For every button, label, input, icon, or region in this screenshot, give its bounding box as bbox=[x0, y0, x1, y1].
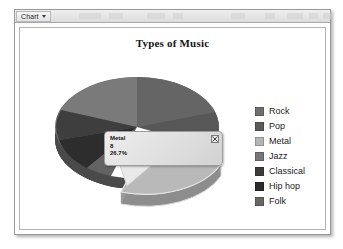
toolbar-disabled-controls bbox=[51, 10, 330, 22]
chart-legend: Rock Pop Metal Jazz Classical bbox=[255, 104, 335, 209]
legend-item-rock[interactable]: Rock bbox=[255, 104, 335, 119]
tooltip-percent: 26.7% bbox=[110, 150, 127, 158]
legend-label: Jazz bbox=[269, 151, 288, 162]
chart-application: Chart Types of Music bbox=[0, 0, 343, 249]
close-box-icon[interactable] bbox=[211, 135, 219, 143]
legend-item-hip-hop[interactable]: Hip hop bbox=[255, 179, 335, 194]
legend-label: Pop bbox=[269, 121, 285, 132]
legend-swatch-icon bbox=[255, 152, 264, 161]
legend-swatch-icon bbox=[255, 182, 264, 191]
legend-item-classical[interactable]: Classical bbox=[255, 164, 335, 179]
legend-label: Classical bbox=[269, 166, 305, 177]
legend-swatch-icon bbox=[255, 107, 264, 116]
chart-menu-label: Chart bbox=[21, 12, 39, 21]
data-tooltip[interactable]: Metal 8 26.7% bbox=[104, 131, 223, 166]
legend-item-jazz[interactable]: Jazz bbox=[255, 149, 335, 164]
tooltip-text: Metal 8 26.7% bbox=[110, 135, 127, 158]
legend-swatch-icon bbox=[255, 137, 264, 146]
legend-label: Metal bbox=[269, 136, 291, 147]
legend-swatch-icon bbox=[255, 122, 264, 131]
toolbar: Chart bbox=[15, 10, 330, 23]
legend-item-folk[interactable]: Folk bbox=[255, 194, 335, 209]
legend-label: Hip hop bbox=[269, 181, 300, 192]
tooltip-label: Metal bbox=[110, 135, 127, 143]
chart-menu-button[interactable]: Chart bbox=[16, 11, 51, 22]
legend-swatch-icon bbox=[255, 167, 264, 176]
legend-label: Folk bbox=[269, 196, 286, 207]
legend-swatch-icon bbox=[255, 197, 264, 206]
chart-title: Types of Music bbox=[15, 37, 330, 49]
tooltip-value: 8 bbox=[110, 143, 127, 151]
legend-label: Rock bbox=[269, 106, 290, 117]
chart-window: Chart Types of Music bbox=[14, 9, 331, 235]
legend-item-metal[interactable]: Metal bbox=[255, 134, 335, 149]
chevron-down-icon bbox=[42, 15, 46, 18]
chart-canvas: Types of Music bbox=[15, 23, 330, 234]
legend-item-pop[interactable]: Pop bbox=[255, 119, 335, 134]
